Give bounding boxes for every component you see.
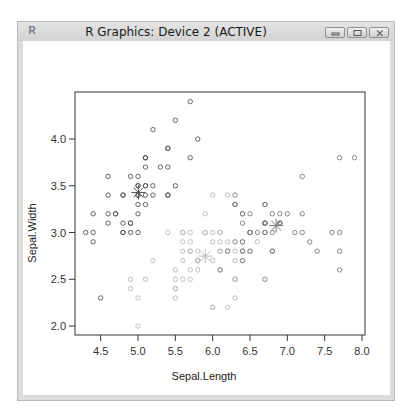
scatter-plot: 4.55.05.56.06.57.07.58.02.02.53.03.54.0 …	[23, 41, 392, 397]
data-point	[136, 230, 140, 234]
data-point	[151, 258, 155, 262]
data-point	[188, 99, 192, 103]
data-point	[181, 230, 185, 234]
data-point	[233, 296, 237, 300]
data-point	[188, 156, 192, 160]
x-tick-label: 5.0	[130, 345, 145, 357]
y-axis-label: Sepal.Width	[26, 203, 38, 262]
maximize-button[interactable]	[347, 27, 367, 38]
data-point	[181, 249, 185, 253]
x-tick-label: 7.0	[280, 345, 295, 357]
data-point	[218, 249, 222, 253]
data-point	[240, 249, 244, 253]
cluster-center-asterisk-icon	[198, 249, 212, 263]
data-point	[240, 240, 244, 244]
data-point	[337, 268, 341, 272]
data-point	[337, 249, 341, 253]
close-icon	[370, 28, 390, 39]
data-point	[255, 240, 259, 244]
data-point	[210, 193, 214, 197]
data-point	[330, 230, 334, 234]
data-point	[225, 240, 229, 244]
close-button[interactable]	[369, 27, 389, 38]
data-point	[128, 286, 132, 290]
y-tick-label: 4.0	[51, 133, 66, 145]
data-point	[263, 221, 267, 225]
data-point	[151, 127, 155, 131]
title-bar[interactable]: R R Graphics: Device 2 (ACTIVE)	[18, 22, 394, 41]
data-point	[188, 268, 192, 272]
data-point	[233, 240, 237, 244]
maximize-icon	[348, 28, 368, 39]
data-point	[151, 184, 155, 188]
data-point	[181, 258, 185, 262]
data-point	[121, 193, 125, 197]
x-tick-label: 6.5	[242, 345, 257, 357]
y-tick-label: 3.5	[51, 180, 66, 192]
data-point	[248, 212, 252, 216]
data-point	[181, 240, 185, 244]
data-point	[300, 230, 304, 234]
x-tick-label: 4.5	[93, 345, 108, 357]
data-point	[188, 240, 192, 244]
data-point	[181, 277, 185, 281]
axes: 4.55.05.56.06.57.07.58.02.02.53.03.54.0	[51, 92, 370, 357]
data-point	[106, 193, 110, 197]
data-point	[285, 212, 289, 216]
x-axis-label: Sepal.Length	[172, 370, 237, 382]
data-point	[352, 156, 356, 160]
data-point	[113, 212, 117, 216]
x-tick-label: 7.5	[317, 345, 332, 357]
data-point	[143, 184, 147, 188]
data-point	[136, 296, 140, 300]
data-point	[270, 212, 274, 216]
y-tick-label: 3.0	[51, 227, 66, 239]
data-point	[106, 174, 110, 178]
x-tick-label: 6.0	[205, 345, 220, 357]
data-point	[218, 268, 222, 272]
data-point	[263, 202, 267, 206]
data-point	[188, 249, 192, 253]
data-point	[218, 230, 222, 234]
data-point	[188, 230, 192, 234]
data-point	[136, 202, 140, 206]
data-point	[233, 277, 237, 281]
data-point	[233, 249, 237, 253]
data-point	[173, 184, 177, 188]
data-point	[196, 268, 200, 272]
data-point	[143, 202, 147, 206]
data-point	[315, 249, 319, 253]
data-point	[218, 240, 222, 244]
data-point	[151, 193, 155, 197]
data-point	[270, 230, 274, 234]
data-point	[121, 230, 125, 234]
data-point	[121, 221, 125, 225]
minimize-icon	[326, 28, 346, 39]
data-point	[166, 146, 170, 150]
data-point	[196, 137, 200, 141]
data-point	[308, 240, 312, 244]
data-point	[240, 212, 244, 216]
plot-frame	[75, 92, 365, 335]
data-point	[196, 249, 200, 253]
data-point	[270, 249, 274, 253]
data-point	[210, 240, 214, 244]
data-point	[240, 258, 244, 262]
data-point	[225, 305, 229, 309]
data-point	[128, 277, 132, 281]
data-point	[166, 230, 170, 234]
data-point	[210, 305, 214, 309]
data-point	[136, 174, 140, 178]
data-point	[210, 230, 214, 234]
data-point	[166, 193, 170, 197]
data-point	[128, 221, 132, 225]
data-point	[173, 296, 177, 300]
data-point	[166, 165, 170, 169]
minimize-button[interactable]	[325, 27, 345, 38]
data-point	[240, 221, 244, 225]
data-point	[210, 258, 214, 262]
data-point	[233, 258, 237, 262]
data-point	[278, 212, 282, 216]
data-point	[106, 221, 110, 225]
data-point	[233, 202, 237, 206]
